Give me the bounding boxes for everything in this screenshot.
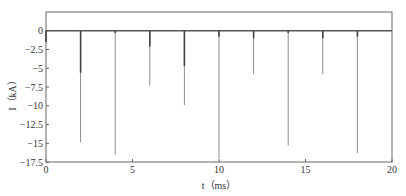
y-tick-label: −12.5 [20,119,43,130]
y-tick-label: 0 [38,25,43,36]
x-tick-label: 20 [387,164,397,175]
y-tick-label: −5 [32,63,43,74]
x-tick-label: 0 [44,164,49,175]
y-tick-label: −7.5 [25,82,43,93]
x-tick-label: 15 [301,164,311,175]
y-tick-label: −15 [27,138,43,149]
current-spike-chart: 0−2.5−5−7.5−10−12.5−15−17.505101520t（ms）… [0,0,406,196]
x-tick-label: 10 [214,164,224,175]
y-tick-label: −2.5 [25,44,43,55]
x-axis-label: t（ms） [202,180,236,191]
y-tick-label: −10 [27,100,43,111]
y-axis-label: I（kA） [7,75,18,111]
x-tick-label: 5 [130,164,135,175]
y-tick-label: −17.5 [20,157,43,168]
